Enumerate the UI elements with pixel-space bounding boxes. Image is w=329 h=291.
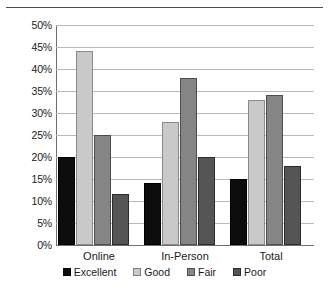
x-axis-tick-label: In-Person — [142, 249, 228, 263]
bar — [266, 95, 283, 245]
y-axis-tick-label: 20% — [4, 152, 52, 162]
legend-swatch-icon — [63, 268, 71, 276]
gridline — [56, 245, 314, 246]
bar — [144, 183, 161, 245]
plot-area — [56, 25, 314, 245]
bar — [94, 135, 111, 245]
bar-group — [56, 25, 142, 245]
y-axis-tick-label: 10% — [4, 196, 52, 206]
y-axis-tick-label: 5% — [4, 218, 52, 228]
bar — [198, 157, 215, 245]
y-axis-tick-label: 35% — [4, 86, 52, 96]
y-axis-tick-labels: 50%45%40%35%30%25%20%15%10%5%0% — [0, 25, 52, 245]
bar — [248, 100, 265, 245]
y-axis-tick-label: 25% — [4, 130, 52, 140]
y-axis-tick-label: 30% — [4, 108, 52, 118]
legend-item: Poor — [233, 266, 266, 278]
figure-top-rule — [6, 7, 323, 8]
legend-item: Good — [133, 266, 170, 278]
legend-swatch-icon — [233, 268, 241, 276]
legend-swatch-icon — [187, 268, 195, 276]
bar — [58, 157, 75, 245]
y-axis-tick-label: 45% — [4, 42, 52, 52]
bar-group — [142, 25, 228, 245]
y-axis-tick-label: 0% — [4, 240, 52, 250]
y-axis-tick-label: 40% — [4, 64, 52, 74]
bar-group — [228, 25, 314, 245]
bar — [162, 122, 179, 245]
legend-item: Fair — [187, 266, 216, 278]
legend-item: Excellent — [63, 266, 117, 278]
bar-chart-figure: 50%45%40%35%30%25%20%15%10%5%0% OnlineIn… — [0, 0, 329, 291]
legend-label: Good — [144, 266, 170, 278]
x-axis-category-labels: OnlineIn-PersonTotal — [56, 249, 314, 265]
x-axis-tick-label: Total — [228, 249, 314, 263]
bar — [230, 179, 247, 245]
chart-legend: ExcellentGoodFairPoor — [0, 266, 329, 278]
legend-swatch-icon — [133, 268, 141, 276]
legend-label: Excellent — [74, 266, 117, 278]
y-axis-tick-label: 15% — [4, 174, 52, 184]
bar — [76, 51, 93, 245]
bar — [180, 78, 197, 245]
x-axis-tick-label: Online — [56, 249, 142, 263]
legend-label: Fair — [198, 266, 216, 278]
bar — [112, 194, 129, 245]
legend-label: Poor — [244, 266, 266, 278]
bar — [284, 166, 301, 245]
y-axis-tick-label: 50% — [4, 20, 52, 30]
